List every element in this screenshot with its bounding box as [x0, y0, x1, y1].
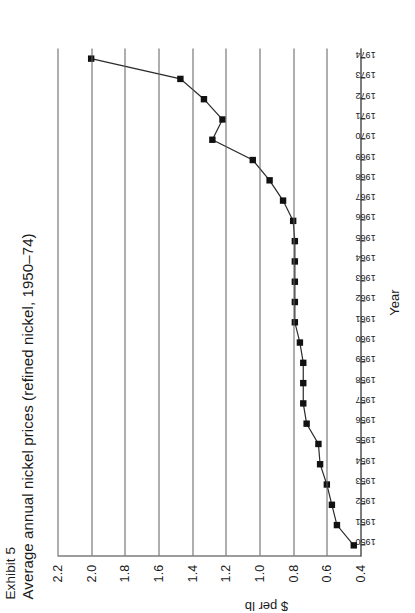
- x-axis-tick-label: 1963: [355, 272, 375, 282]
- exhibit-label: Exhibit 5: [2, 233, 18, 599]
- gridline: [293, 48, 294, 555]
- data-point-marker: [303, 420, 309, 426]
- data-point-marker: [291, 237, 297, 243]
- y-axis-tick-label: 1.6: [151, 564, 165, 582]
- data-point-marker: [219, 116, 225, 122]
- x-axis-tick-label: 1951: [355, 516, 375, 526]
- gridline: [192, 48, 193, 555]
- data-point-marker: [316, 461, 322, 467]
- data-point-marker: [300, 379, 306, 385]
- x-axis-tick-label: 1960: [355, 333, 375, 343]
- data-point-marker: [291, 319, 297, 325]
- data-point-marker: [328, 501, 334, 507]
- data-point-marker: [300, 400, 306, 406]
- x-axis-tick-label: 1966: [355, 211, 375, 221]
- x-axis-tick-label: 1970: [355, 130, 375, 140]
- x-axis-tick-label: 1950: [355, 536, 375, 546]
- title-block: Exhibit 5 Average annual nickel prices (…: [2, 233, 37, 599]
- x-axis-tick-label: 1971: [355, 110, 375, 120]
- x-axis-tick-label: 1954: [355, 455, 375, 465]
- y-axis-tick-label: 0.8: [286, 564, 300, 582]
- data-point-marker: [296, 339, 302, 345]
- x-axis-tick-label: 1974: [355, 49, 375, 59]
- data-point-marker: [266, 177, 272, 183]
- x-axis-title: Year: [386, 48, 401, 556]
- x-axis-tick-label: 1958: [355, 374, 375, 384]
- data-point-marker: [209, 136, 215, 142]
- data-point-marker: [200, 96, 206, 102]
- data-point-marker: [177, 75, 183, 81]
- x-axis-tick-label: 1968: [355, 171, 375, 181]
- data-point-marker: [291, 258, 297, 264]
- x-axis-tick-label: 1965: [355, 232, 375, 242]
- x-axis-tick-label: 1957: [355, 394, 375, 404]
- x-axis-tick-label: 1962: [355, 293, 375, 303]
- series-polyline: [91, 58, 354, 545]
- plot-area: [57, 48, 361, 556]
- y-axis-tick-label: 1.0: [252, 564, 266, 582]
- y-axis-tick-label: 0.6: [319, 564, 333, 582]
- gridline: [225, 48, 226, 555]
- y-axis-tick-label: 0.4: [353, 564, 367, 582]
- gridline: [57, 48, 58, 555]
- data-point-marker: [315, 440, 321, 446]
- y-axis-tick-label: 2.2: [50, 564, 64, 582]
- x-axis-tick-label: 1967: [355, 191, 375, 201]
- gridline: [326, 48, 327, 555]
- data-point-marker: [291, 298, 297, 304]
- data-point-marker: [279, 197, 285, 203]
- x-axis-tick-label: 1969: [355, 151, 375, 161]
- x-axis-tick-label: 1973: [355, 69, 375, 79]
- gridline: [158, 48, 159, 555]
- gridline: [124, 48, 125, 555]
- y-axis-title: $ per lb: [114, 598, 415, 613]
- y-axis-tick-label: 1.2: [218, 564, 232, 582]
- y-axis-tick-label: 1.8: [117, 564, 131, 582]
- x-axis-tick-label: 1956: [355, 414, 375, 424]
- gridline: [259, 48, 260, 555]
- chart-title: Average annual nickel prices (refined ni…: [18, 233, 36, 599]
- x-axis-tick-label: 1953: [355, 475, 375, 485]
- y-axis-tick-label: 2.0: [84, 564, 98, 582]
- x-axis-tick-label: 1955: [355, 434, 375, 444]
- x-axis-tick-label: 1972: [355, 90, 375, 100]
- y-axis-tick-labels: 2.22.01.81.61.41.21.00.80.60.4: [57, 559, 361, 603]
- data-point-marker: [249, 156, 255, 162]
- data-series-line: [57, 48, 360, 555]
- data-point-marker: [333, 521, 339, 527]
- x-axis-tick-label: 1952: [355, 495, 375, 505]
- data-point-marker: [291, 278, 297, 284]
- x-axis-tick-label: 1959: [355, 353, 375, 363]
- x-axis-tick-label: 1964: [355, 252, 375, 262]
- data-point-marker: [300, 359, 306, 365]
- x-axis-tick-label: 1961: [355, 313, 375, 323]
- gridline: [91, 48, 92, 555]
- y-axis-tick-label: 1.4: [185, 564, 199, 582]
